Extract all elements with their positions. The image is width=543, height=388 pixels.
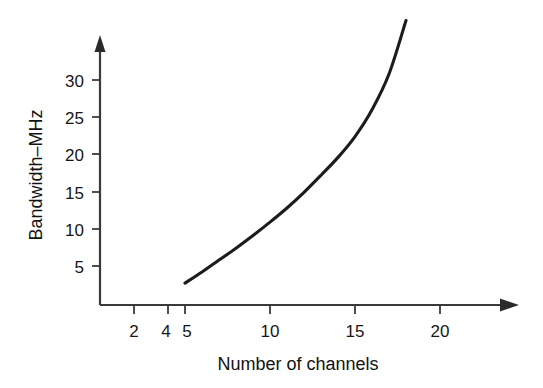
- chart-figure: 30 25 20 15 10 5 2 4 5 10 15 20 Number o…: [0, 0, 543, 388]
- x-axis-title: Number of channels: [217, 354, 378, 374]
- x-tick-label-5: 5: [182, 322, 191, 341]
- y-tick-label-30: 30: [65, 72, 84, 91]
- x-tick-label-10: 10: [261, 322, 280, 341]
- x-tick-group: [134, 305, 440, 314]
- y-tick-label-20: 20: [65, 146, 84, 165]
- y-tick-label-10: 10: [65, 221, 84, 240]
- x-axis-arrow-icon: [500, 299, 519, 312]
- chart-canvas: 30 25 20 15 10 5 2 4 5 10 15 20 Number o…: [0, 0, 543, 388]
- y-tick-label-5: 5: [75, 258, 84, 277]
- y-axis-arrow-icon: [95, 35, 106, 52]
- y-tick-label-15: 15: [65, 184, 84, 203]
- y-tick-label-25: 25: [65, 109, 84, 128]
- y-axis-title: Bandwidth–MHz: [26, 109, 46, 240]
- data-curve-bandwidth: [185, 20, 406, 283]
- x-tick-label-20: 20: [431, 322, 450, 341]
- x-tick-label-15: 15: [346, 322, 365, 341]
- y-tick-group: [92, 80, 100, 266]
- x-tick-label-4: 4: [161, 322, 170, 341]
- x-tick-label-2: 2: [129, 322, 138, 341]
